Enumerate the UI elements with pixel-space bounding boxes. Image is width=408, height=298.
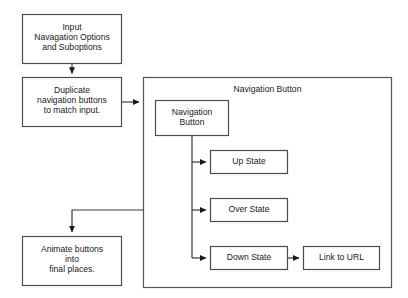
flowchart-canvas: Input Navagation Options and Suboptions … [0, 0, 408, 298]
box-nested-navigation-button [156, 101, 229, 136]
flowchart-graphics [0, 0, 408, 298]
box-down-state [211, 247, 288, 270]
box-up-state [211, 151, 288, 174]
box-over-state [211, 199, 288, 222]
box-link-to-url [304, 247, 380, 270]
box-duplicate [23, 78, 122, 127]
connector-container-to-animate [72, 210, 144, 232]
box-animate [23, 237, 122, 286]
box-input [23, 15, 122, 64]
